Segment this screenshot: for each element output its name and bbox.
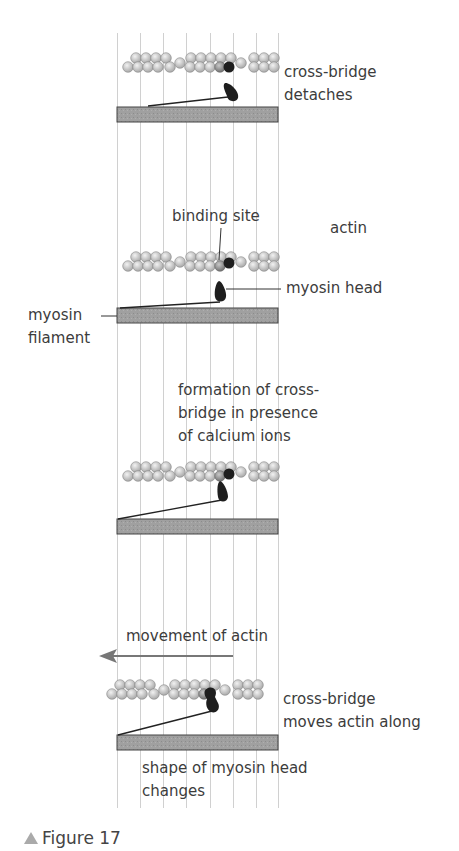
label-formation-3: of calcium ions: [178, 426, 291, 447]
label-cross-bridge-2: cross-bridge: [283, 689, 375, 710]
panel-resting: [101, 228, 281, 323]
panel-formation: [117, 462, 279, 534]
label-shape-change-2: changes: [142, 781, 205, 802]
figure-caption: Figure 17: [24, 828, 121, 848]
myosin-filament-bar: [117, 107, 278, 122]
label-cross-bridge: cross-bridge: [284, 62, 376, 83]
label-detaches: detaches: [284, 85, 353, 106]
label-formation-1: formation of cross-: [178, 380, 319, 401]
panel-detach: [117, 53, 279, 122]
label-moves-actin-along: moves actin along: [283, 712, 421, 733]
label-actin: actin: [330, 218, 367, 239]
label-shape-change-1: shape of myosin head: [142, 758, 308, 779]
figure-caption-text: Figure 17: [42, 828, 121, 848]
label-filament: filament: [28, 328, 90, 349]
label-movement-of-actin: movement of actin: [126, 626, 268, 647]
panel-power-stroke: [99, 649, 278, 750]
myosin-head-icon: [224, 83, 239, 101]
label-myosin-head: myosin head: [286, 278, 382, 299]
myosin-head-bent-icon: [205, 688, 219, 713]
label-formation-2: bridge in presence: [178, 403, 318, 424]
binding-site-bead: [224, 62, 235, 73]
label-myosin: myosin: [28, 305, 82, 326]
triangle-icon: [24, 832, 38, 844]
label-binding-site: binding site: [172, 206, 260, 227]
